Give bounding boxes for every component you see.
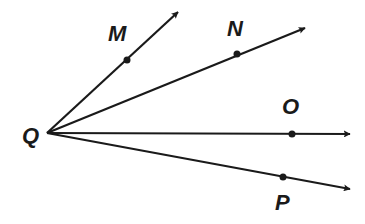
points <box>124 51 296 181</box>
point-m <box>124 57 131 64</box>
rays <box>47 12 350 189</box>
point-label-n: N <box>227 16 244 41</box>
ray-qp <box>47 133 350 189</box>
labels: Q MNOP <box>22 16 299 215</box>
point-o <box>289 131 296 138</box>
point-n <box>234 51 241 58</box>
ray-qn <box>47 28 305 133</box>
geometry-diagram: Q MNOP <box>0 0 365 224</box>
ray-qo <box>47 133 350 134</box>
point-label-o: O <box>282 94 299 119</box>
point-label-p: P <box>275 190 290 215</box>
rays-figure: Q MNOP <box>0 0 365 224</box>
point-p <box>280 174 287 181</box>
vertex-label-q: Q <box>22 123 39 148</box>
point-label-m: M <box>108 21 127 46</box>
